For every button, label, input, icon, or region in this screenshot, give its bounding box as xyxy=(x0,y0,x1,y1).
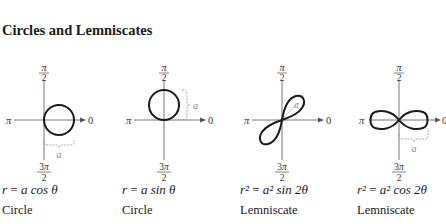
equation-lhs: r² xyxy=(357,182,366,197)
svg-text:2: 2 xyxy=(397,73,402,83)
svg-text:a: a xyxy=(57,149,62,160)
equation-rhs: a sin θ xyxy=(141,182,176,197)
svg-text:3π: 3π xyxy=(277,162,287,172)
equation-rhs: a² sin 2θ xyxy=(263,182,308,197)
svg-text:π: π xyxy=(359,115,365,126)
svg-text:3π: 3π xyxy=(39,162,49,172)
svg-text:2: 2 xyxy=(280,73,285,83)
svg-text:π: π xyxy=(279,62,285,73)
svg-text:π: π xyxy=(126,115,132,126)
svg-text:a: a xyxy=(412,143,417,154)
svg-text:a: a xyxy=(294,100,299,110)
equation: r² = a² cos 2θ xyxy=(357,182,427,198)
equation-lhs: r xyxy=(122,182,127,197)
equation-rhs: a² cos 2θ xyxy=(380,182,427,197)
panel-lemniscate-cos: a π 2 π 0 3π 2 r² = a² cos 2θ Lemniscate xyxy=(355,0,446,224)
svg-text:0: 0 xyxy=(88,115,93,126)
equation-lhs: r xyxy=(2,182,7,197)
panel-circle-cos: π 2 π 0 a 3π 2 r = a cos θ Circle xyxy=(0,0,112,224)
svg-text:2: 2 xyxy=(162,73,167,83)
equation: r = a sin θ xyxy=(122,182,175,198)
svg-text:π: π xyxy=(396,62,402,73)
svg-text:π: π xyxy=(161,62,167,73)
curve-name: Circle xyxy=(2,203,33,218)
equation: r = a cos θ xyxy=(2,182,58,198)
svg-text:π: π xyxy=(6,115,12,126)
panel-circle-sin: π 2 π 0 a 3π 2 r = a sin θ Circle xyxy=(120,0,232,224)
curve-name: Circle xyxy=(122,203,153,218)
svg-text:0: 0 xyxy=(208,115,213,126)
svg-text:a: a xyxy=(193,100,198,111)
svg-text:π: π xyxy=(41,62,47,73)
equation-lhs: r² xyxy=(240,182,249,197)
equation-rhs: a cos θ xyxy=(21,182,58,197)
svg-text:2: 2 xyxy=(42,73,47,83)
svg-text:3π: 3π xyxy=(159,162,169,172)
curve-name: Lemniscate xyxy=(240,203,298,218)
svg-text:3π: 3π xyxy=(394,162,404,172)
equation: r² = a² sin 2θ xyxy=(240,182,308,198)
svg-text:0: 0 xyxy=(326,115,331,126)
curve-name: Lemniscate xyxy=(357,203,415,218)
panel-lemniscate-sin: a π 2 π 0 3π 2 r² = a² sin 2θ Lemniscate xyxy=(238,0,350,224)
svg-text:0: 0 xyxy=(442,115,446,126)
svg-text:π: π xyxy=(244,115,250,126)
